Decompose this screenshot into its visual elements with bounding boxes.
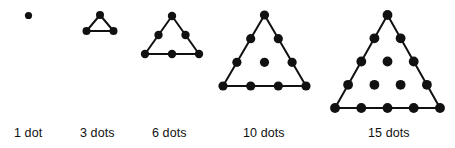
dot [356, 103, 366, 113]
dot [110, 27, 118, 35]
dot [288, 58, 297, 67]
dot [330, 103, 340, 113]
dot [409, 57, 419, 67]
dot [168, 50, 176, 58]
figure-caption-ten-dots: 10 dots [243, 127, 285, 140]
dot-group-one-dot [25, 12, 32, 19]
dot [370, 33, 380, 43]
dot [383, 10, 393, 20]
dot [181, 31, 189, 39]
dot [218, 81, 227, 90]
dot [154, 31, 162, 39]
dot [260, 58, 269, 67]
dot [141, 50, 149, 58]
dot [383, 57, 393, 67]
dot [195, 50, 203, 58]
dot [83, 27, 91, 35]
figure-caption-three-dots: 3 dots [80, 127, 115, 140]
figure-caption-one-dot: 1 dot [14, 127, 42, 140]
dot [246, 34, 255, 43]
figure-caption-fifteen-dots: 15 dots [368, 127, 410, 140]
dot [343, 80, 353, 90]
dot [25, 12, 32, 19]
dot [232, 58, 241, 67]
triangle-outline-six-dots [145, 16, 199, 54]
dot [370, 80, 380, 90]
triangular-numbers-figure: 1 dot3 dots6 dots10 dots15 dots [0, 0, 455, 148]
dot [260, 10, 269, 19]
dot [274, 34, 283, 43]
shapes-layer [25, 10, 445, 113]
dot [435, 103, 445, 113]
dot [301, 81, 310, 90]
dot [396, 80, 406, 90]
dot-group-three-dots [83, 11, 118, 35]
dot [383, 103, 393, 113]
dot-group-ten-dots [218, 10, 310, 90]
dot [96, 11, 104, 19]
dot [168, 12, 176, 20]
triangle-outline-ten-dots [223, 15, 306, 86]
dot [396, 33, 406, 43]
dot [274, 81, 283, 90]
dot-group-six-dots [141, 12, 203, 58]
figure-caption-six-dots: 6 dots [152, 127, 187, 140]
dot [422, 80, 432, 90]
dot-group-fifteen-dots [330, 10, 445, 113]
dot [246, 81, 255, 90]
dot [409, 103, 419, 113]
dot [356, 57, 366, 67]
